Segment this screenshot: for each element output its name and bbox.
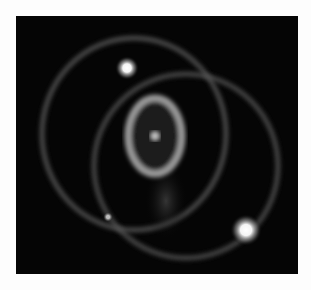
star-bottom-right — [230, 214, 262, 246]
nebula-image — [16, 16, 298, 274]
star-small — [103, 212, 113, 222]
central-source — [150, 131, 160, 141]
star-top — [115, 56, 139, 80]
nebula-graphic — [16, 16, 298, 274]
